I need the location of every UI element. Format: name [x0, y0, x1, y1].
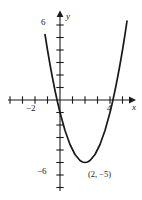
parabola-figure: y x 6 −6 −2 4 (2, −5) [0, 0, 142, 200]
y-axis-arrowhead [57, 11, 64, 18]
y-tick-label-6: 6 [41, 18, 46, 27]
x-tick-label-4: 4 [107, 104, 112, 113]
x-axis-label: x [132, 103, 136, 112]
parabola-curve [45, 21, 127, 163]
x-tick-label-negative-2: −2 [26, 104, 36, 113]
y-tick-label-negative-6: −6 [37, 167, 47, 176]
vertex-coordinate-label: (2, −5) [88, 170, 111, 179]
y-axis-label: y [66, 12, 70, 21]
coordinate-plane-graphic [0, 0, 142, 200]
